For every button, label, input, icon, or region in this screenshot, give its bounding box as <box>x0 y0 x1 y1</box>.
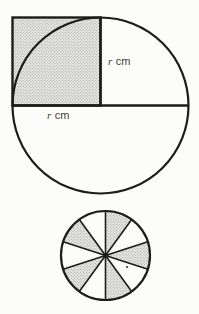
radius-symbol: r <box>108 55 113 67</box>
shaded-square <box>13 18 101 106</box>
radius-symbol: r <box>47 109 52 121</box>
vertical-radius-label: rcm <box>108 55 130 67</box>
top-figure: rcm rcm <box>13 18 189 194</box>
geometry-diagram: rcm rcm <box>0 0 199 314</box>
center-dot <box>103 253 108 258</box>
speck-dot <box>126 266 128 268</box>
radius-unit: cm <box>55 109 70 121</box>
shaded-sector <box>63 220 105 256</box>
radius-unit: cm <box>116 55 131 67</box>
horizontal-radius-label: rcm <box>47 109 69 121</box>
diagram-page: rcm rcm <box>0 0 199 314</box>
shaded-sector <box>63 256 105 292</box>
